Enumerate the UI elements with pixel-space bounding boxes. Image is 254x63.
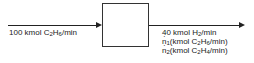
inlet-stream-label: 100 kmol C2H6/min (9, 28, 77, 37)
inlet-stream-line (8, 25, 96, 26)
outlet-label-ethane: n1(kmol C2H6/min) (162, 37, 228, 46)
outlet-label-ethylene: n2(kmol C2H4/min) (162, 46, 228, 55)
process-unit-box (102, 3, 149, 47)
outlet-text: /min) (210, 37, 228, 46)
outlet-arrow-head-icon (239, 22, 245, 28)
outlet-text: /min) (210, 46, 228, 55)
outlet-text: (kmol C (170, 37, 198, 46)
n-dot-symbol: n (162, 46, 166, 55)
outlet-label-h2: 40 kmol H2/min (162, 28, 216, 37)
inlet-text: /min (62, 28, 77, 37)
outlet-text: 40 kmol H (162, 28, 198, 37)
outlet-text: /min (201, 28, 216, 37)
outlet-text: (kmol C (170, 46, 198, 55)
outlet-stream-line (149, 25, 239, 26)
inlet-text: 100 kmol C (9, 28, 49, 37)
